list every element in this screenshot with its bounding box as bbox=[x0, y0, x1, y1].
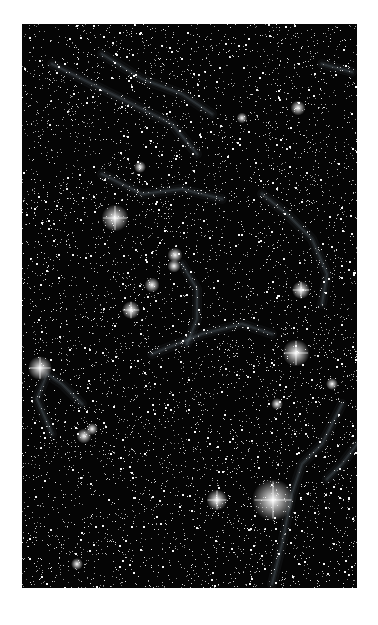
star-field-image bbox=[22, 24, 357, 588]
star-field-canvas bbox=[22, 24, 357, 588]
caption-bottom bbox=[0, 612, 378, 620]
